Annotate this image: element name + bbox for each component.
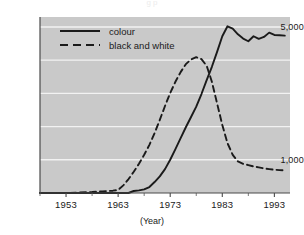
x-axis-title: (Year) — [0, 216, 304, 226]
dashed-line-icon — [58, 40, 102, 50]
x-tick-label-1973: 1973 — [150, 199, 190, 210]
legend-label-colour: colour — [109, 26, 135, 37]
x-tick-label-1963: 1963 — [98, 199, 138, 210]
x-tick-label-1983: 1983 — [202, 199, 242, 210]
y-tick-label-1000: 1,000 — [268, 155, 304, 165]
y-tick-label-5000: 5,000 — [268, 22, 304, 32]
legend-item-colour: colour — [58, 24, 174, 38]
legend-label-black-and-white: black and white — [109, 40, 174, 51]
chart-legend: colour black and white — [58, 24, 174, 52]
chart-figure: g p 5,000 1,000 1953 1963 1973 1983 1993… — [0, 0, 304, 235]
solid-line-icon — [58, 26, 102, 36]
x-tick-label-1953: 1953 — [46, 199, 86, 210]
x-tick-label-1993: 1993 — [254, 199, 294, 210]
legend-item-black-and-white: black and white — [58, 38, 174, 52]
